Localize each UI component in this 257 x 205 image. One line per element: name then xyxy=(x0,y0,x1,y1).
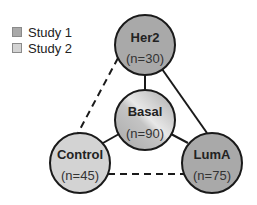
edge-her2-control xyxy=(78,58,118,133)
node-luma-count: (n=75) xyxy=(193,168,231,183)
node-luma-title: LumA xyxy=(194,147,231,162)
node-her2-title: Her2 xyxy=(131,30,160,45)
node-basal: Basal (n=90) xyxy=(115,90,175,150)
node-basal-count: (n=90) xyxy=(126,126,164,141)
node-her2-count: (n=30) xyxy=(126,51,164,66)
edge-basal-control xyxy=(103,134,119,143)
node-luma: LumA (n=75) xyxy=(182,133,242,193)
node-control: Control (n=45) xyxy=(50,133,110,193)
node-control-count: (n=45) xyxy=(61,168,99,183)
edge-basal-luma xyxy=(171,134,188,143)
node-her2: Her2 (n=30) xyxy=(115,15,175,75)
network-diagram: Her2 (n=30) Basal (n=90) Control (n=45) … xyxy=(0,0,257,205)
node-control-title: Control xyxy=(57,147,103,162)
node-basal-title: Basal xyxy=(128,104,163,119)
